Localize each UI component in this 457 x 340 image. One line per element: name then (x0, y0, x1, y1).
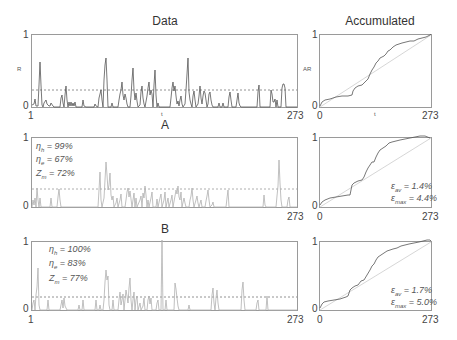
acc-x-min-label: 0 (317, 110, 323, 121)
acc-x-axis-label-t: t (374, 111, 376, 117)
b-eta-e: ηe = 83% (49, 258, 86, 273)
a-acc-x-max-label: 273 (422, 211, 439, 222)
accumulated-title: Accumulated (335, 14, 425, 28)
a-title: A (155, 118, 175, 132)
a-acc-x-min-label: 0 (317, 211, 323, 222)
b-acc-y-min-label: 0 (312, 303, 318, 314)
x-max-label: 273 (287, 110, 304, 121)
y-axis-label-r: R (17, 66, 21, 72)
acc-diagonal (320, 35, 431, 107)
acc-y-axis-label: AR (303, 66, 311, 72)
data-series (32, 58, 297, 107)
acc-series (320, 34, 431, 106)
b-acc-y-max-label: 1 (312, 236, 318, 247)
b-z-m: Zm = 77% (49, 273, 88, 288)
b-y-min-label: 0 (23, 303, 29, 314)
b-x-min-label: 1 (28, 314, 34, 325)
b-x-max-label: 273 (287, 314, 304, 325)
y-max-label: 1 (23, 29, 29, 40)
a-acc-y-min-label: 0 (312, 200, 318, 211)
x-min-label: 1 (28, 110, 34, 121)
acc-x-max-label: 273 (422, 110, 439, 121)
a-x-max-label: 273 (287, 211, 304, 222)
a-acc-y-max-label: 1 (312, 132, 318, 143)
acc-y-max-label: 1 (312, 29, 318, 40)
a-eps-max: εmax = 4.4% (391, 193, 437, 208)
b-title: B (155, 222, 175, 236)
x-axis-label-t: t (161, 111, 163, 117)
a-y-max-label: 1 (23, 132, 29, 143)
a-z-m: Zm = 72% (36, 168, 75, 183)
b-acc-x-min-label: 0 (317, 314, 323, 325)
b-eps-max: εmax = 5.0% (391, 297, 437, 312)
data-title: Data (140, 14, 190, 28)
a-eta-e: ηe = 67% (36, 154, 73, 169)
a-y-min-label: 0 (23, 200, 29, 211)
b-y-max-label: 1 (23, 236, 29, 247)
b-acc-x-max-label: 273 (422, 314, 439, 325)
b-eta-h: ηh = 100% (49, 244, 91, 259)
